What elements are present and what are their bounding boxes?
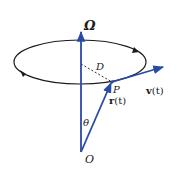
origin-label: O xyxy=(85,153,94,166)
position-label: r(t) xyxy=(109,95,126,106)
orbit-direction-arrow-icon xyxy=(132,47,139,53)
position-label-arg: (t) xyxy=(114,95,126,106)
d-label: D xyxy=(95,61,104,72)
orbit-direction-arrow-icon xyxy=(20,70,26,77)
diagram-canvas: Ω D P v(t) r(t) θ O xyxy=(0,0,177,181)
omega-label: Ω xyxy=(83,18,96,33)
velocity-label-arg: (t) xyxy=(152,85,164,96)
velocity-vector-v xyxy=(112,67,163,82)
velocity-label: v(t) xyxy=(145,85,164,96)
precession-diagram: Ω D P v(t) r(t) θ O xyxy=(0,0,177,181)
p-label: P xyxy=(112,84,120,95)
theta-label: θ xyxy=(83,117,89,128)
